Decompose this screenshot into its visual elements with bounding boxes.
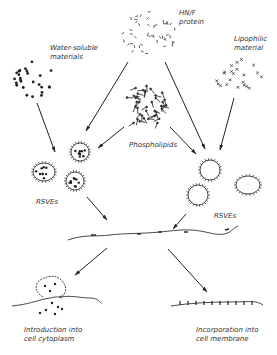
phospholipid-head: [146, 106, 148, 108]
cargo-dot: [49, 290, 51, 292]
spike: [49, 162, 50, 164]
spike: [206, 188, 208, 189]
vesicle-membrane: [188, 185, 208, 205]
lipid-cross: [236, 68, 239, 71]
spike: [190, 186, 191, 188]
diagram-canvas: [0, 0, 277, 355]
spike: [258, 179, 260, 180]
spike: [202, 204, 203, 206]
cargo-dot: [39, 173, 41, 175]
spike: [33, 166, 35, 167]
protein-dash: [147, 33, 148, 36]
cargo-dot: [81, 150, 83, 152]
lipid-cross: [243, 84, 246, 87]
phospholipid-head: [164, 99, 166, 101]
cargo-dot: [43, 177, 45, 179]
dot: [31, 95, 34, 98]
lipid-cross: [237, 86, 240, 89]
spike: [39, 162, 40, 164]
cargo-dot: [78, 181, 80, 183]
protein-dash: [130, 30, 133, 31]
dot: [41, 91, 44, 94]
phospholipid-head: [133, 95, 135, 97]
cargo-dot: [54, 313, 56, 315]
phospholipid-head: [137, 118, 139, 120]
spike: [193, 204, 194, 206]
label-introduction: Introduction into cell cytoplasm: [24, 326, 82, 344]
cargo-dot: [79, 155, 81, 157]
cargo-dot: [45, 173, 47, 175]
spike: [188, 200, 190, 201]
protein-dash: [159, 36, 161, 38]
phospholipid-head: [126, 97, 128, 99]
dot: [25, 70, 28, 73]
cargo-dot: [84, 149, 86, 151]
phospholipid-head: [158, 118, 160, 120]
label-lipophilic: Lipophilic material: [234, 35, 267, 53]
membrane-proteins: [91, 229, 229, 235]
protein-dash: [166, 34, 169, 36]
dot: [17, 73, 20, 76]
spike: [236, 179, 238, 180]
cargo-dot: [40, 167, 42, 169]
spike: [88, 157, 90, 158]
spike: [66, 175, 68, 176]
spike: [214, 159, 215, 161]
spike: [200, 164, 202, 165]
dot: [50, 69, 53, 72]
membrane-with-proteins: [171, 301, 263, 306]
protein-dash: [130, 43, 133, 44]
phospholipid-head: [135, 87, 137, 89]
phospholipid-head: [137, 107, 139, 109]
spike: [214, 179, 215, 181]
phospholipid-head: [160, 105, 162, 107]
dot: [26, 72, 29, 75]
arrow-protein-to-rsves-left: [86, 62, 128, 131]
phospholipid-head: [155, 95, 157, 97]
arrow-membrane-to-incorporation: [168, 249, 207, 292]
rsves-empty: [186, 158, 262, 207]
spike: [253, 193, 254, 195]
spike: [68, 188, 69, 190]
spike: [236, 190, 238, 191]
spike: [256, 177, 257, 179]
protein-dash: [134, 45, 135, 48]
spike: [51, 179, 52, 181]
spike: [218, 175, 220, 176]
spike: [51, 164, 52, 166]
spike: [73, 144, 74, 146]
protein-dash: [148, 24, 150, 26]
spike: [75, 160, 76, 162]
cargo-dot: [44, 285, 46, 287]
arrow-lipophilic-to-rsves: [220, 98, 234, 150]
phospholipid-head: [141, 115, 143, 117]
cargo-dot: [35, 170, 37, 172]
spike: [70, 171, 71, 173]
spike: [256, 192, 257, 194]
phospholipid-rods: [126, 85, 169, 128]
label-phospholipids: Phospholipids: [129, 141, 177, 150]
dot: [48, 86, 51, 89]
spike: [33, 177, 35, 178]
phospholipid-head: [144, 90, 146, 92]
spike: [66, 186, 68, 187]
spike: [83, 175, 85, 176]
spike: [202, 178, 203, 180]
lipid-cross: [245, 85, 248, 88]
protein-dash: [136, 21, 138, 23]
phospholipid-head: [156, 122, 158, 124]
spike: [71, 157, 73, 158]
spike: [202, 161, 203, 163]
dot: [15, 84, 18, 87]
spike: [81, 173, 82, 175]
protein-dash: [122, 32, 124, 34]
lipid-cross: [260, 75, 263, 78]
lipid-cross: [230, 70, 233, 73]
phospholipid-head: [161, 92, 163, 94]
label-rsves-right: RSVEs: [214, 212, 236, 221]
protein-dash: [174, 28, 175, 31]
dot: [32, 81, 35, 84]
phospholipid-head: [133, 122, 135, 124]
cargo-dot: [74, 150, 76, 152]
water-soluble-dots: [13, 60, 52, 98]
